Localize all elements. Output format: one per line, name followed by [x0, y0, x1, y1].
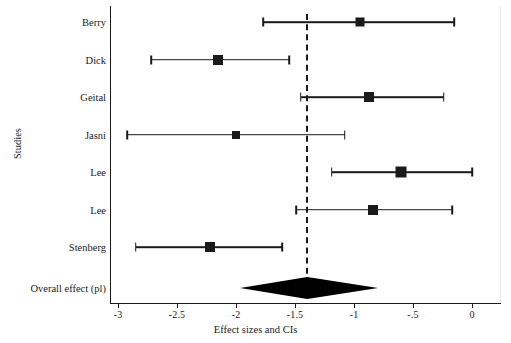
x-tick-mark [118, 303, 119, 308]
effect-size-marker [205, 242, 215, 252]
confidence-interval-cap [443, 93, 445, 102]
plot-right-edge [500, 6, 501, 303]
study-label: Berry [2, 17, 106, 28]
x-tick-label: -.5 [407, 309, 418, 320]
confidence-interval-cap [288, 55, 290, 64]
study-label: Lee [2, 167, 106, 178]
confidence-interval-cap [451, 205, 453, 214]
x-tick-mark [472, 303, 473, 308]
y-axis-line [110, 6, 111, 303]
study-label: Stenberg [2, 242, 106, 253]
forest-plot: Studies Effect sizes and CIs -3-2.5-2-1.… [0, 0, 511, 343]
effect-size-marker [368, 205, 378, 215]
confidence-interval-cap [135, 243, 137, 252]
confidence-interval-cap [331, 168, 333, 177]
x-tick-label: -3 [114, 309, 123, 320]
x-tick-mark [354, 303, 355, 308]
x-axis-title: Effect sizes and CIs [0, 324, 511, 335]
overall-effect-diamond [240, 277, 378, 299]
y-axis-title: Studies [12, 114, 23, 174]
study-label: Dick [2, 54, 106, 65]
confidence-interval-cap [344, 130, 346, 139]
confidence-interval-cap [454, 18, 456, 27]
study-label: Geital [2, 92, 106, 103]
effect-size-marker [396, 167, 407, 178]
x-tick-mark [295, 303, 296, 308]
study-label: Lee [2, 204, 106, 215]
x-tick-mark [413, 303, 414, 308]
x-tick-label: -2.5 [169, 309, 186, 320]
effect-size-marker [364, 92, 374, 102]
confidence-interval-cap [471, 168, 473, 177]
x-tick-label: 0 [469, 309, 474, 320]
effect-size-marker [355, 18, 364, 27]
reference-line [306, 14, 308, 294]
x-tick-mark [177, 303, 178, 308]
effect-size-marker [232, 131, 240, 139]
confidence-interval-cap [281, 243, 283, 252]
confidence-interval-cap [262, 18, 264, 27]
x-axis-line [110, 303, 501, 304]
overall-effect-label: Overall effect (pl) [2, 282, 106, 293]
confidence-interval-cap [295, 205, 297, 214]
x-tick-mark [236, 303, 237, 308]
x-tick-label: -1.5 [287, 309, 304, 320]
effect-size-marker [213, 55, 223, 65]
x-tick-label: -2 [232, 309, 241, 320]
confidence-interval-cap [150, 55, 152, 64]
confidence-interval-cap [127, 130, 129, 139]
confidence-interval-cap [300, 93, 302, 102]
x-tick-label: -1 [350, 309, 359, 320]
study-label: Jasni [2, 129, 106, 140]
